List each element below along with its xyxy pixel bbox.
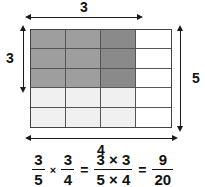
left-dimension-arrow bbox=[23, 31, 24, 87]
grid-cell bbox=[31, 69, 66, 88]
grid-cell bbox=[31, 30, 66, 49]
numerator: 3 bbox=[62, 152, 74, 167]
arrow-head-up-icon bbox=[177, 25, 183, 31]
grid-cell bbox=[66, 88, 101, 107]
top-dimension-arrow bbox=[31, 17, 137, 18]
grid-cell bbox=[136, 88, 171, 107]
equals-sign-first: = bbox=[78, 162, 90, 178]
grid-cell bbox=[101, 49, 136, 68]
bottom-dimension-arrow bbox=[31, 138, 172, 139]
denominator: 5 × 4 bbox=[94, 172, 132, 187]
grid-cell bbox=[66, 108, 101, 127]
right-dimension-arrow bbox=[180, 31, 181, 126]
numerator: 9 bbox=[157, 152, 169, 167]
grid-cell bbox=[136, 49, 171, 68]
arrow-head-right-icon bbox=[137, 14, 143, 20]
denominator: 20 bbox=[152, 172, 173, 187]
grid-cell bbox=[66, 30, 101, 49]
top-dimension-label: 3 bbox=[74, 0, 94, 14]
fraction-product-expanded: 3 × 3 5 × 4 bbox=[94, 152, 132, 187]
arrow-head-up-icon bbox=[20, 25, 26, 31]
fraction-nine-twentieths: 9 20 bbox=[152, 152, 173, 187]
grid-cell bbox=[31, 49, 66, 68]
arrow-head-right-icon bbox=[172, 135, 178, 141]
grid-cell bbox=[136, 30, 171, 49]
arrow-head-down-icon bbox=[20, 87, 26, 93]
numerator: 3 bbox=[32, 152, 44, 167]
fraction-three-fourths: 3 4 bbox=[61, 152, 74, 187]
multiplication-operator: × bbox=[49, 164, 57, 176]
grid-cell bbox=[101, 108, 136, 127]
arrow-head-down-icon bbox=[177, 126, 183, 132]
equation-row: 3 5 × 3 4 = 3 × 3 5 × 4 = 9 20 bbox=[0, 152, 205, 187]
arrow-head-left-icon bbox=[25, 135, 31, 141]
area-model-grid bbox=[30, 29, 172, 128]
grid-cell bbox=[136, 108, 171, 127]
grid-cell bbox=[31, 88, 66, 107]
grid-cell bbox=[101, 88, 136, 107]
denominator: 5 bbox=[32, 172, 44, 187]
grid-cell bbox=[136, 69, 171, 88]
equals-sign-second: = bbox=[136, 162, 148, 178]
grid-cell bbox=[66, 49, 101, 68]
fraction-three-fifths: 3 5 bbox=[32, 152, 45, 187]
arrow-head-left-icon bbox=[25, 14, 31, 20]
denominator: 4 bbox=[62, 172, 74, 187]
grid-cell bbox=[31, 108, 66, 127]
right-dimension-label: 5 bbox=[188, 71, 204, 85]
figure-canvas: 3 3 5 4 bbox=[0, 0, 205, 187]
numerator: 3 × 3 bbox=[94, 152, 132, 167]
grid-cell bbox=[66, 69, 101, 88]
grid-cell bbox=[101, 30, 136, 49]
grid-cell bbox=[101, 69, 136, 88]
left-dimension-label: 3 bbox=[2, 51, 18, 65]
